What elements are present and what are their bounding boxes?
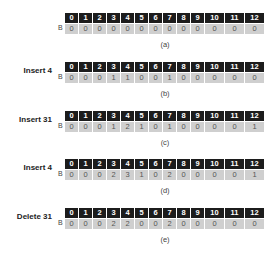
counter-cell: 0	[225, 122, 244, 132]
counter-cell: 3	[121, 170, 134, 180]
counter-cell: 2	[107, 219, 120, 229]
index-cell: 7	[163, 111, 176, 121]
index-cell: 6	[149, 62, 162, 72]
counter-cell: 0	[65, 24, 78, 34]
counter-cell: 0	[177, 122, 190, 132]
index-cell: 6	[149, 208, 162, 218]
counter-cell: 1	[107, 122, 120, 132]
counter-cell: 0	[245, 73, 264, 83]
operation-label: Delete 31	[0, 212, 52, 221]
row-label: B	[58, 122, 63, 129]
operation-label: Insert 31	[0, 115, 52, 124]
index-cell: 5	[135, 208, 148, 218]
counter-row: 0001210100001	[65, 122, 265, 132]
counter-cell: 0	[177, 73, 190, 83]
panel-caption: (b)	[0, 89, 277, 98]
counter-cell: 0	[205, 170, 224, 180]
counter-cell: 0	[79, 170, 92, 180]
index-cell: 6	[149, 111, 162, 121]
counter-cell: 0	[65, 73, 78, 83]
panel-caption: (a)	[0, 40, 277, 49]
index-cell: 11	[225, 208, 244, 218]
counter-cell: 0	[191, 122, 204, 132]
index-header-row: 0123456789101112	[65, 159, 265, 169]
row-label: B	[58, 170, 63, 177]
index-cell: 6	[149, 159, 162, 169]
index-cell: 1	[79, 62, 92, 72]
counter-cell: 0	[79, 122, 92, 132]
index-cell: 10	[205, 159, 224, 169]
index-cell: 8	[177, 111, 190, 121]
counter-cell: 0	[79, 24, 92, 34]
counter-cell: 0	[149, 122, 162, 132]
counter-cell: 0	[225, 219, 244, 229]
counter-cell: 2	[163, 219, 176, 229]
index-cell: 7	[163, 62, 176, 72]
index-cell: 9	[191, 159, 204, 169]
counter-cell: 0	[205, 73, 224, 83]
counter-cell: 0	[93, 73, 106, 83]
counter-cell: 0	[93, 219, 106, 229]
counter-cell: 0	[79, 73, 92, 83]
counter-row: 0001100100000	[65, 73, 265, 83]
counter-cell: 0	[177, 24, 190, 34]
index-cell: 0	[65, 159, 78, 169]
index-cell: 10	[205, 13, 224, 23]
counter-cell: 0	[163, 24, 176, 34]
counter-cell: 0	[191, 170, 204, 180]
index-cell: 5	[135, 159, 148, 169]
row-label: B	[58, 73, 63, 80]
counter-cell: 0	[65, 122, 78, 132]
counter-cell: 0	[149, 170, 162, 180]
counter-row: 0002200200000	[65, 219, 265, 229]
counter-cell: 0	[65, 170, 78, 180]
counter-cell: 0	[191, 219, 204, 229]
counter-cell: 0	[245, 219, 264, 229]
index-cell: 12	[245, 111, 264, 121]
counter-cell: 1	[245, 170, 264, 180]
counter-cell: 1	[135, 122, 148, 132]
counter-cell: 0	[93, 122, 106, 132]
counter-cell: 2	[107, 170, 120, 180]
index-cell: 3	[107, 159, 120, 169]
counter-cell: 2	[121, 219, 134, 229]
counter-row: 0002310200001	[65, 170, 265, 180]
counter-cell: 0	[177, 170, 190, 180]
counter-cell: 0	[149, 24, 162, 34]
index-cell: 0	[65, 13, 78, 23]
counter-cell: 0	[225, 24, 244, 34]
counter-cell: 1	[245, 122, 264, 132]
index-cell: 5	[135, 62, 148, 72]
index-cell: 3	[107, 111, 120, 121]
index-cell: 1	[79, 208, 92, 218]
counter-cell: 1	[135, 170, 148, 180]
counter-cell: 0	[149, 219, 162, 229]
counter-cell: 0	[191, 24, 204, 34]
index-cell: 9	[191, 208, 204, 218]
index-cell: 5	[135, 13, 148, 23]
counter-cell: 1	[163, 73, 176, 83]
index-cell: 7	[163, 159, 176, 169]
index-cell: 8	[177, 159, 190, 169]
index-cell: 10	[205, 208, 224, 218]
index-cell: 3	[107, 208, 120, 218]
index-cell: 4	[121, 111, 134, 121]
index-cell: 4	[121, 13, 134, 23]
counter-row: 0000000000000	[65, 24, 265, 34]
index-cell: 8	[177, 13, 190, 23]
index-cell: 1	[79, 159, 92, 169]
index-cell: 8	[177, 62, 190, 72]
index-cell: 12	[245, 13, 264, 23]
index-cell: 9	[191, 13, 204, 23]
panel-caption: (e)	[0, 235, 277, 244]
index-cell: 5	[135, 111, 148, 121]
row-label: B	[58, 219, 63, 226]
index-cell: 7	[163, 13, 176, 23]
counter-cell: 0	[149, 73, 162, 83]
row-label: B	[58, 24, 63, 31]
counter-cell: 1	[163, 122, 176, 132]
panel-caption: (d)	[0, 186, 277, 195]
index-cell: 8	[177, 208, 190, 218]
index-cell: 0	[65, 111, 78, 121]
counter-cell: 0	[205, 122, 224, 132]
